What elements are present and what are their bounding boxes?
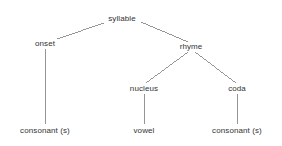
tree-edges <box>45 22 237 124</box>
tree-edge-rhyme-to-nucleus <box>146 52 188 83</box>
tree-node-onset-leaf: consonant (s) <box>20 127 70 135</box>
tree-node-coda: coda <box>228 85 246 93</box>
tree-edge-layer <box>0 0 282 146</box>
tree-node-onset: onset <box>35 40 55 48</box>
tree-edge-syllable-to-onset <box>57 23 104 39</box>
tree-node-coda-leaf: consonant (s) <box>212 127 262 135</box>
tree-edge-syllable-to-rhyme <box>141 22 188 42</box>
tree-node-rhyme: rhyme <box>180 43 203 51</box>
tree-node-syllable: syllable <box>108 15 135 23</box>
tree-edge-rhyme-to-coda <box>195 52 236 83</box>
tree-node-nucleus: nucleus <box>130 85 158 93</box>
tree-node-vowel: vowel <box>134 127 155 135</box>
syllable-tree-diagram: syllableonsetrhymenucleuscodaconsonant (… <box>0 0 282 146</box>
